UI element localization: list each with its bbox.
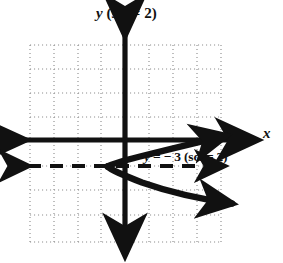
graph-figure: y (scl = 2) x y = − 3 (scl = 2) <box>0 0 283 263</box>
y-axis-label-variable: y <box>96 5 103 21</box>
y-axis-label: y (scl = 2) <box>96 6 157 21</box>
line-equation-annotation: y = − 3 (scl = 2) <box>144 150 227 164</box>
graph-canvas <box>0 0 283 263</box>
x-axis-label: x <box>263 126 271 141</box>
y-axis-label-scale: (scl = 2) <box>103 5 157 21</box>
line-equation-rest: = − 3 (scl = 2) <box>150 149 228 164</box>
